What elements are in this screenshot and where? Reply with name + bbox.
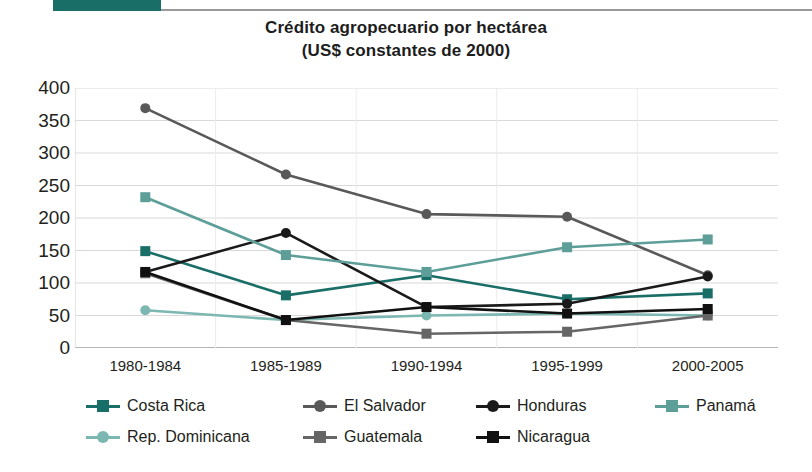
page-subtitle: (US$ constantes de 2000) bbox=[0, 39, 812, 62]
y-tick-label: 400 bbox=[24, 78, 70, 97]
x-axis-labels: 1980-19841985-19891990-19941995-19992000… bbox=[75, 356, 778, 380]
legend-item-guatemala[interactable]: Guatemala bbox=[303, 423, 422, 451]
legend-row: Costa RicaEl SalvadorHondurasPanamá bbox=[72, 392, 772, 420]
y-axis-labels: 400350300250200150100500 bbox=[14, 88, 70, 348]
series-el-salvador bbox=[140, 103, 712, 280]
series-line bbox=[145, 197, 707, 272]
data-point-marker bbox=[422, 267, 432, 277]
page-title: Crédito agropecuario por hectárea bbox=[0, 16, 812, 39]
data-point-marker bbox=[562, 327, 572, 337]
data-point-marker bbox=[703, 304, 713, 314]
y-tick-label: 0 bbox=[24, 338, 70, 357]
top-banner-strip bbox=[0, 0, 812, 14]
data-point-marker bbox=[422, 302, 432, 312]
legend-circle-icon bbox=[487, 400, 499, 412]
legend-label: Panamá bbox=[696, 397, 756, 415]
y-tick-label: 300 bbox=[24, 143, 70, 162]
data-point-marker bbox=[703, 272, 713, 282]
legend-item-nicaragua[interactable]: Nicaragua bbox=[476, 423, 590, 451]
data-point-marker bbox=[281, 290, 291, 300]
legend-circle-icon bbox=[314, 400, 326, 412]
legend-label: Nicaragua bbox=[517, 428, 590, 446]
data-point-marker bbox=[140, 192, 150, 202]
legend-marker-icon bbox=[655, 398, 689, 414]
legend-item-rep-dominicana[interactable]: Rep. Dominicana bbox=[86, 423, 250, 451]
data-point-marker bbox=[281, 250, 291, 260]
legend-row: Rep. DominicanaGuatemalaNicaragua bbox=[72, 423, 772, 451]
legend-square-icon bbox=[487, 431, 499, 443]
y-tick-label: 100 bbox=[24, 273, 70, 292]
legend-square-icon bbox=[666, 400, 678, 412]
x-tick-label: 2000-2005 bbox=[638, 356, 778, 376]
legend-square-icon bbox=[314, 431, 326, 443]
data-point-marker bbox=[562, 309, 572, 319]
data-point-marker bbox=[140, 305, 150, 315]
data-point-marker bbox=[703, 234, 713, 244]
data-point-marker bbox=[562, 242, 572, 252]
x-tick-label: 1985-1989 bbox=[216, 356, 356, 376]
legend-item-costa-rica[interactable]: Costa Rica bbox=[86, 392, 205, 420]
y-tick-label: 250 bbox=[24, 176, 70, 195]
x-tick-label: 1990-1994 bbox=[357, 356, 497, 376]
data-point-marker bbox=[281, 315, 291, 325]
legend-marker-icon bbox=[86, 398, 120, 414]
data-point-marker bbox=[140, 246, 150, 256]
banner-horizontal-rule bbox=[161, 9, 812, 11]
series-panam bbox=[140, 192, 712, 277]
banner-tab bbox=[53, 0, 161, 11]
data-point-marker bbox=[562, 299, 572, 309]
legend-marker-icon bbox=[303, 398, 337, 414]
legend-item-honduras[interactable]: Honduras bbox=[476, 392, 586, 420]
legend-label: Honduras bbox=[517, 397, 586, 415]
chart-legend: Costa RicaEl SalvadorHondurasPanamáRep. … bbox=[72, 392, 772, 458]
x-tick-label: 1980-1984 bbox=[75, 356, 215, 376]
y-tick-label: 350 bbox=[24, 111, 70, 130]
data-point-marker bbox=[281, 169, 291, 179]
legend-marker-icon bbox=[303, 429, 337, 445]
y-tick-label: 200 bbox=[24, 208, 70, 227]
legend-item-el-salvador[interactable]: El Salvador bbox=[303, 392, 426, 420]
legend-circle-icon bbox=[97, 431, 109, 443]
data-point-marker bbox=[422, 329, 432, 339]
data-point-marker bbox=[422, 209, 432, 219]
y-tick-label: 50 bbox=[24, 306, 70, 325]
data-point-marker bbox=[562, 212, 572, 222]
legend-marker-icon bbox=[476, 398, 510, 414]
line-chart-svg bbox=[75, 88, 778, 348]
y-tick-label: 150 bbox=[24, 241, 70, 260]
legend-label: El Salvador bbox=[344, 397, 426, 415]
data-point-marker bbox=[281, 228, 291, 238]
data-point-marker bbox=[703, 288, 713, 298]
chart-plot-area bbox=[75, 88, 778, 348]
legend-label: Costa Rica bbox=[127, 397, 205, 415]
data-point-marker bbox=[140, 103, 150, 113]
legend-label: Guatemala bbox=[344, 428, 422, 446]
x-tick-label: 1995-1999 bbox=[497, 356, 637, 376]
title-block: Crédito agropecuario por hectárea (US$ c… bbox=[0, 16, 812, 62]
legend-marker-icon bbox=[476, 429, 510, 445]
legend-square-icon bbox=[97, 400, 109, 412]
data-point-marker bbox=[140, 267, 150, 277]
legend-marker-icon bbox=[86, 429, 120, 445]
legend-item-panam[interactable]: Panamá bbox=[655, 392, 756, 420]
legend-label: Rep. Dominicana bbox=[127, 428, 250, 446]
